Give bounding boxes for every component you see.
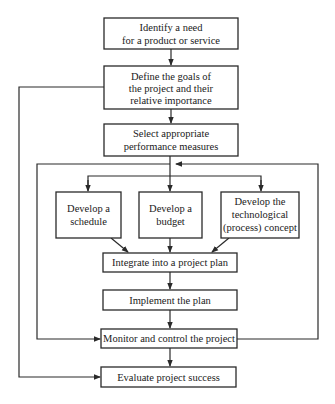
node-monitor: Monitor and control the project [101,329,237,348]
identify-need-line-2: for a product or service [122,35,220,46]
develop-budget-line-1: Develop a [149,203,192,214]
arrow-schedule-to-integrate [111,238,128,252]
node-develop-budget: Develop a budget [139,192,202,238]
develop-budget-box [139,192,202,238]
define-goals-line-2: the project and their [129,83,214,94]
develop-schedule-box [56,192,121,238]
develop-tech-line-1: Develop the [234,196,285,207]
node-define-goals: Define the goals of the project and thei… [104,66,238,109]
develop-schedule-line-2: schedule [70,216,107,227]
define-goals-line-1: Define the goals of [131,71,212,82]
node-develop-schedule: Develop a schedule [56,192,121,238]
feedback-loop-right [176,164,318,339]
develop-budget-line-2: budget [156,216,185,227]
feedback-loop-left [37,164,170,339]
project-management-flowchart: Identify a need for a product or service… [0,0,335,404]
select-measures-line-2: performance measures [124,141,219,152]
monitor-label: Monitor and control the project [103,333,235,344]
develop-tech-line-2: technological [232,209,289,220]
node-integrate: Integrate into a project plan [103,253,237,272]
node-identify-need: Identify a need for a product or service [104,18,238,49]
node-select-measures: Select appropriate performance measures [104,124,238,156]
implement-label: Implement the plan [129,295,211,306]
identify-need-line-1: Identify a need [140,22,204,33]
node-evaluate: Evaluate project success [101,367,236,387]
branch-line [88,176,261,190]
develop-tech-line-3: (process) concept [223,222,297,234]
integrate-label: Integrate into a project plan [112,257,229,268]
select-measures-line-1: Select appropriate [133,128,209,139]
node-implement: Implement the plan [103,290,237,310]
define-goals-line-3: relative importance [130,95,212,106]
node-develop-tech: Develop the technological (process) conc… [221,192,299,238]
develop-schedule-line-1: Develop a [67,203,110,214]
arrow-tech-to-integrate [212,238,229,252]
evaluate-label: Evaluate project success [117,372,220,383]
